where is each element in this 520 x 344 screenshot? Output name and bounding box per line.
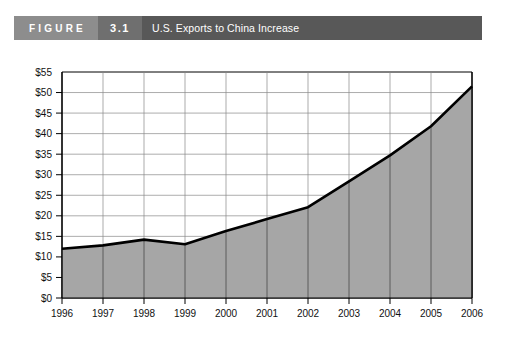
figure-title: U.S. Exports to China Increase: [142, 16, 482, 40]
x-tick-label: 2001: [256, 308, 279, 319]
y-tick-label: $55: [35, 67, 52, 78]
x-tick-label: 1998: [133, 308, 156, 319]
y-tick-label: $40: [35, 128, 52, 139]
x-axis-ticks: [62, 298, 472, 304]
y-tick-label: $50: [35, 87, 52, 98]
x-tick-label: 2004: [379, 308, 402, 319]
y-tick-label: $45: [35, 108, 52, 119]
x-tick-label: 2005: [420, 308, 443, 319]
y-tick-label: $5: [41, 272, 53, 283]
figure-header: FIGURE 3.1 U.S. Exports to China Increas…: [14, 16, 482, 40]
x-tick-label: 2006: [461, 308, 484, 319]
x-tick-label: 2002: [297, 308, 320, 319]
y-tick-label: $20: [35, 210, 52, 221]
figure-word-label: FIGURE: [14, 16, 98, 40]
y-tick-label: $30: [35, 169, 52, 180]
y-tick-label: $10: [35, 251, 52, 262]
y-tick-label: $0: [41, 293, 53, 304]
y-axis-ticks: [56, 93, 62, 298]
y-axis-labels: $0$5$10$15$20$25$30$35$40$45$50$55: [35, 67, 52, 304]
y-tick-label: $25: [35, 190, 52, 201]
x-tick-label: 1997: [92, 308, 115, 319]
x-tick-label: 1999: [174, 308, 197, 319]
y-tick-label: $35: [35, 149, 52, 160]
x-tick-label: 2000: [215, 308, 238, 319]
x-axis-labels: 1996199719981999200020012002200320042005…: [51, 308, 484, 319]
x-tick-label: 1996: [51, 308, 74, 319]
x-tick-label: 2003: [338, 308, 361, 319]
figure-number-label: 3.1: [98, 16, 142, 40]
exports-area-chart: $0$5$10$15$20$25$30$35$40$45$50$55 19961…: [0, 52, 520, 344]
y-tick-label: $15: [35, 231, 52, 242]
chart-container: $0$5$10$15$20$25$30$35$40$45$50$55 19961…: [0, 52, 520, 344]
